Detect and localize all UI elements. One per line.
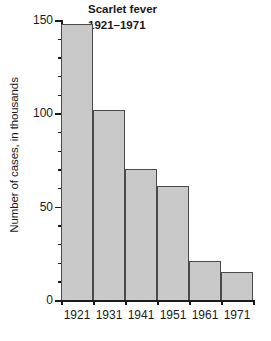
bar-1921: [61, 24, 93, 300]
x-tick-6: [253, 300, 255, 305]
x-tick-2: [125, 300, 127, 305]
x-tick-1: [93, 300, 95, 305]
x-tick-4: [189, 300, 191, 305]
x-tick-3: [157, 300, 159, 305]
plot-area: 050100150 192119311941195119611971: [61, 20, 253, 300]
bar-1931: [93, 110, 125, 300]
y-major-tick-150: [55, 20, 61, 22]
x-tick-label-1941: 1941: [128, 308, 155, 322]
y-tick-label-0: 0: [46, 293, 53, 307]
y-tick-label-150: 150: [33, 13, 53, 27]
x-tick-label-1971: 1971: [224, 308, 251, 322]
scarlet-fever-bar-chart: Number of cases, in thousands Scarlet fe…: [0, 0, 271, 341]
x-tick-label-1951: 1951: [160, 308, 187, 322]
bar-1941: [125, 169, 157, 300]
x-tick-0: [61, 300, 63, 305]
bar-1961: [189, 261, 221, 300]
chart-title-line1: Scarlet fever: [88, 2, 157, 18]
y-tick-label-50: 50: [40, 200, 53, 214]
y-tick-label-100: 100: [33, 106, 53, 120]
x-tick-label-1931: 1931: [96, 308, 123, 322]
x-tick-label-1961: 1961: [192, 308, 219, 322]
x-tick-5: [221, 300, 223, 305]
bar-1971: [221, 272, 253, 300]
bar-1951: [157, 186, 189, 300]
x-tick-label-1921: 1921: [64, 308, 91, 322]
y-axis-title: Number of cases, in thousands: [4, 5, 24, 305]
